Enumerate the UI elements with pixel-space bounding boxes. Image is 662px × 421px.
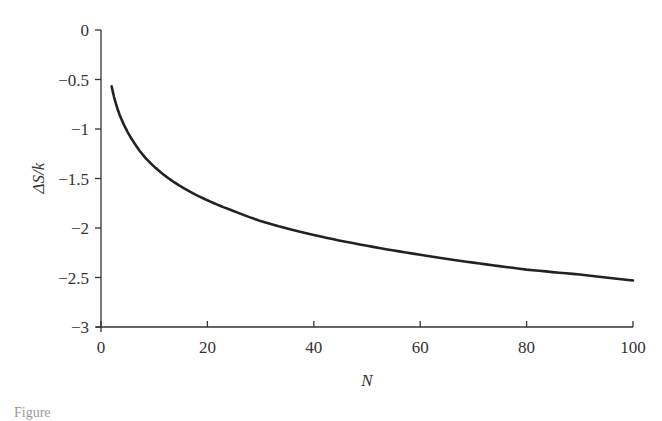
data-line (112, 86, 633, 280)
x-tick-label: 40 (305, 338, 322, 357)
x-tick-label: 100 (620, 338, 646, 357)
x-axis-label: N (360, 371, 374, 390)
y-tick-label: 0 (81, 21, 90, 40)
y-tick-label: −0.5 (58, 71, 89, 90)
x-tick-label: 20 (199, 338, 216, 357)
y-axis-label: ΔS/k (29, 162, 48, 194)
y-tick-label: −2.5 (58, 269, 89, 288)
y-tick-label: −3 (71, 318, 89, 337)
axes: 0−0.5−1−1.5−2−2.5−3020406080100 (58, 21, 646, 357)
y-tick-label: −2 (71, 219, 89, 238)
x-tick-label: 60 (412, 338, 429, 357)
x-tick-label: 0 (97, 338, 106, 357)
figure-caption: Figure (14, 405, 51, 421)
y-tick-label: −1 (71, 120, 89, 139)
x-tick-label: 80 (518, 338, 535, 357)
y-tick-label: −1.5 (58, 170, 89, 189)
